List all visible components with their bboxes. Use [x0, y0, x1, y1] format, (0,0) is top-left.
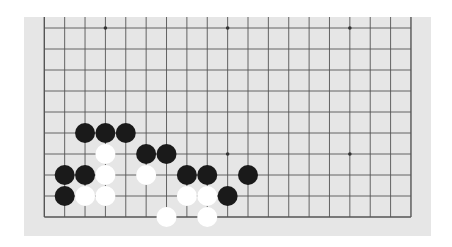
white-stone [197, 207, 217, 227]
black-stone [75, 123, 95, 143]
white-stone [177, 186, 197, 206]
star-point [226, 152, 230, 156]
star-point [348, 26, 352, 30]
go-diagram [0, 0, 452, 247]
black-stone [218, 186, 238, 206]
black-stone [136, 144, 156, 164]
star-point [104, 26, 108, 30]
white-stone [157, 207, 177, 227]
white-stone [95, 186, 115, 206]
black-stone [116, 123, 136, 143]
go-board [24, 17, 431, 236]
star-point [226, 26, 230, 30]
black-stone [177, 165, 197, 185]
black-stone [75, 165, 95, 185]
white-stone [136, 165, 156, 185]
white-stone [95, 144, 115, 164]
black-stone [157, 144, 177, 164]
white-stone [197, 186, 217, 206]
black-stone [95, 123, 115, 143]
white-stone [75, 186, 95, 206]
board-grid [24, 17, 431, 236]
black-stone [55, 165, 75, 185]
black-stone [197, 165, 217, 185]
black-stone [238, 165, 258, 185]
black-stone [55, 186, 75, 206]
white-stone [95, 165, 115, 185]
star-point [348, 152, 352, 156]
